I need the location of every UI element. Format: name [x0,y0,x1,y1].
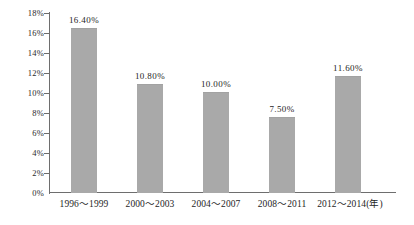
y-axis-tick-label: 0% [10,189,44,198]
plot-area [50,13,396,193]
bar-1996-1999 [71,28,97,193]
y-axis-tick-label: 2% [10,169,44,178]
y-axis-tick-label: 6% [10,129,44,138]
bar-value-label-2004-2007: 10.00% [181,80,251,89]
y-axis-tick-label: 12% [10,69,44,78]
bar-value-label-2008-2011: 7.50% [247,105,317,114]
bar-value-label-1996-1999: 16.40% [49,16,119,25]
y-axis-tick-label: 14% [10,49,44,58]
y-axis-tick-label: 8% [10,109,44,118]
y-axis-tick-label: 10% [10,89,44,98]
bar-value-label-2000-2003: 10.80% [115,72,185,81]
bar-2008-2011 [269,117,295,193]
y-axis-tick-label: 18% [10,9,44,18]
y-axis-tick-label: 4% [10,149,44,158]
bar-2012-2014 [335,76,361,193]
y-axis-tick-label: 16% [10,29,44,38]
x-axis-tick-label-2012-2014: 2012～2014(年) [305,199,395,209]
bar-2000-2003 [137,84,163,193]
bar-chart-figure: 18% 16% 14% 12% 10% 8% 6% 4% 2% 0% 16.40… [0,0,414,225]
bar-2004-2007 [203,92,229,193]
bar-value-label-2012-2014: 11.60% [313,64,383,73]
